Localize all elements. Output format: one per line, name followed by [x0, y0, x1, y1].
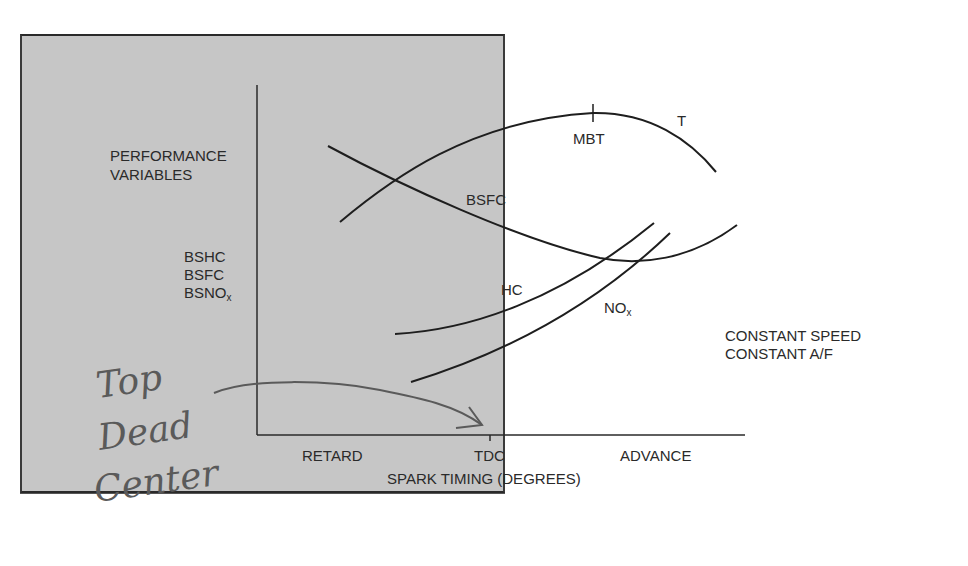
handwritten-top: Top	[93, 356, 164, 406]
y-sublabel-bshc: BSHC	[184, 248, 226, 265]
hc-curve	[395, 223, 654, 334]
x-tick-tdc: TDC	[474, 447, 505, 464]
y-sublabel-bsfc: BSFC	[184, 266, 224, 283]
bsfc-label: BSFC	[466, 191, 506, 208]
torque-label: T	[677, 112, 686, 129]
x-tick-retard: RETARD	[302, 447, 363, 464]
y-axis-label-line2: VARIABLES	[110, 166, 192, 183]
bsfc-curve	[328, 146, 737, 261]
x-tick-advance: ADVANCE	[620, 447, 691, 464]
handwritten-dead: Dead	[94, 404, 194, 458]
torque-curve	[340, 113, 716, 222]
nox-label: NOx	[604, 299, 632, 318]
mbt-label: MBT	[573, 130, 605, 147]
condition-speed: CONSTANT SPEED	[725, 327, 861, 344]
annotation-arrow	[214, 382, 482, 425]
condition-af: CONSTANT A/F	[725, 345, 833, 362]
y-sublabel-bsnox: BSNOx	[184, 284, 232, 303]
x-axis-title: SPARK TIMING (DEGREES)	[387, 470, 581, 487]
y-axis-label-line1: PERFORMANCE	[110, 147, 227, 164]
handwritten-center: Center	[91, 452, 222, 510]
hc-label: HC	[501, 281, 523, 298]
chart-canvas: PERFORMANCE VARIABLES BSHC BSFC BSNOx MB…	[0, 0, 968, 566]
